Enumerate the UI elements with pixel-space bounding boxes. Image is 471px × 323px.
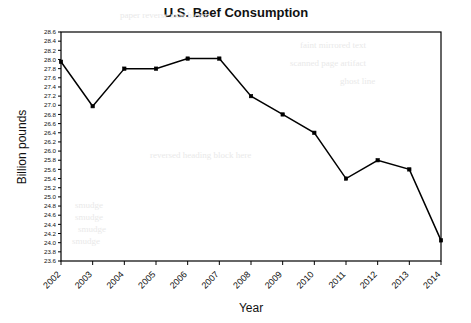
y-tick-label: 24.0 bbox=[44, 239, 57, 246]
data-point-marker bbox=[313, 131, 316, 134]
data-point-marker bbox=[281, 113, 284, 116]
y-tick-label: 27.2 bbox=[44, 92, 57, 99]
data-point-marker bbox=[249, 94, 252, 97]
x-axis-label: Year bbox=[239, 301, 263, 315]
data-point-marker bbox=[154, 67, 157, 70]
data-point-marker bbox=[408, 168, 411, 171]
y-tick-label: 28.4 bbox=[44, 37, 57, 44]
y-tick-label: 24.2 bbox=[44, 230, 57, 237]
y-tick-label: 25.2 bbox=[44, 184, 57, 191]
y-tick-label: 25.0 bbox=[44, 193, 57, 200]
y-tick-label: 23.8 bbox=[44, 248, 57, 255]
y-tick-label: 28.6 bbox=[44, 28, 57, 35]
y-axis-label: Billion pounds bbox=[15, 110, 29, 185]
data-point-marker bbox=[123, 67, 126, 70]
y-tick-label: 26.0 bbox=[44, 147, 57, 154]
data-point-marker bbox=[59, 60, 62, 63]
y-tick-label: 26.4 bbox=[44, 129, 57, 136]
y-tick-label: 26.8 bbox=[44, 111, 57, 118]
data-point-marker bbox=[186, 57, 189, 60]
y-tick-label: 25.4 bbox=[44, 175, 57, 182]
data-point-marker bbox=[344, 177, 347, 180]
y-tick-label: 27.8 bbox=[44, 65, 57, 72]
y-tick-label: 25.6 bbox=[44, 166, 57, 173]
y-tick-label: 24.4 bbox=[44, 221, 57, 228]
y-tick-label: 27.0 bbox=[44, 101, 57, 108]
y-tick-label: 28.0 bbox=[44, 56, 57, 63]
data-point-marker bbox=[376, 159, 379, 162]
y-tick-label: 26.2 bbox=[44, 138, 57, 145]
y-tick-label: 24.8 bbox=[44, 202, 57, 209]
data-point-marker bbox=[218, 57, 221, 60]
y-tick-label: 27.4 bbox=[44, 83, 57, 90]
y-tick-label: 28.2 bbox=[44, 47, 57, 54]
y-tick-label: 25.8 bbox=[44, 156, 57, 163]
chart-figure: U.S. Beef Consumption 28.628.428.228.027… bbox=[0, 0, 471, 323]
data-point-marker bbox=[91, 105, 94, 108]
y-tick-label: 23.6 bbox=[44, 257, 57, 264]
data-point-marker bbox=[439, 239, 442, 242]
y-tick-label: 27.6 bbox=[44, 74, 57, 81]
y-tick-label: 26.6 bbox=[44, 120, 57, 127]
beef-consumption-line-chart: U.S. Beef Consumption 28.628.428.228.027… bbox=[0, 0, 471, 323]
y-tick-label: 24.6 bbox=[44, 211, 57, 218]
chart-title: U.S. Beef Consumption bbox=[164, 5, 309, 20]
